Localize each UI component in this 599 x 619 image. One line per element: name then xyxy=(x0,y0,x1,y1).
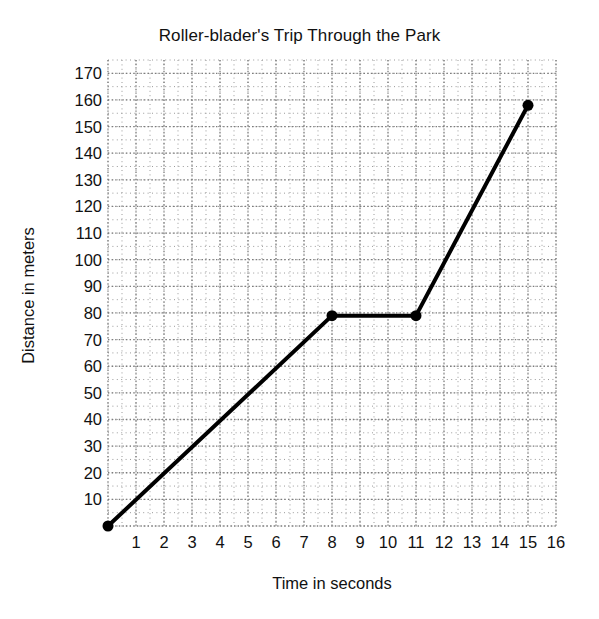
y-axis-tick-label: 90 xyxy=(48,278,102,294)
data-series xyxy=(108,60,556,526)
y-axis-tick-label: 50 xyxy=(48,385,102,401)
x-axis-tick-label: 11 xyxy=(401,533,431,551)
x-axis-tick-label: 12 xyxy=(429,533,459,551)
x-axis-tick-label: 1 xyxy=(121,533,151,551)
y-axis-tick-label: 20 xyxy=(48,465,102,481)
y-axis-tick-label: 100 xyxy=(48,252,102,268)
y-axis-title-container: Distance in meters xyxy=(10,0,44,619)
data-point-marker xyxy=(523,100,534,111)
y-axis-tick-label: 140 xyxy=(48,145,102,161)
chart-title: Roller-blader's Trip Through the Park xyxy=(0,26,599,46)
x-axis-tick-label: 8 xyxy=(317,533,347,551)
x-axis-tick-label: 5 xyxy=(233,533,263,551)
line-chart: Roller-blader's Trip Through the Park Di… xyxy=(0,0,599,619)
data-point-marker xyxy=(411,310,422,321)
y-axis-tick-label: 150 xyxy=(48,119,102,135)
x-axis-tick-labels: 12345678910111213141516 xyxy=(108,533,556,557)
x-axis-tick-label: 2 xyxy=(149,533,179,551)
x-axis-tick-label: 13 xyxy=(457,533,487,551)
series-line xyxy=(108,105,528,526)
y-axis-tick-label: 70 xyxy=(48,332,102,348)
data-point-marker xyxy=(327,310,338,321)
y-axis-tick-labels: 1020304050607080901001101201301401501601… xyxy=(40,60,102,526)
x-axis-tick-label: 15 xyxy=(513,533,543,551)
y-axis-tick-label: 160 xyxy=(48,92,102,108)
data-point-marker xyxy=(103,521,114,532)
y-axis-tick-label: 170 xyxy=(48,65,102,81)
plot-area xyxy=(108,60,556,526)
y-axis-tick-label: 110 xyxy=(48,225,102,241)
y-axis-tick-label: 80 xyxy=(48,305,102,321)
x-axis-tick-label: 16 xyxy=(541,533,571,551)
x-axis-tick-label: 6 xyxy=(261,533,291,551)
y-axis-tick-label: 40 xyxy=(48,411,102,427)
y-axis-tick-label: 120 xyxy=(48,198,102,214)
y-axis-title: Distance in meters xyxy=(19,186,38,406)
x-axis-tick-label: 4 xyxy=(205,533,235,551)
y-axis-tick-label: 130 xyxy=(48,172,102,188)
y-axis-tick-label: 60 xyxy=(48,358,102,374)
y-axis-tick-label: 30 xyxy=(48,438,102,454)
x-axis-tick-label: 3 xyxy=(177,533,207,551)
x-axis-title: Time in seconds xyxy=(108,574,556,593)
x-axis-tick-label: 14 xyxy=(485,533,515,551)
x-axis-tick-label: 9 xyxy=(345,533,375,551)
x-axis-tick-label: 10 xyxy=(373,533,403,551)
y-axis-tick-label: 10 xyxy=(48,491,102,507)
x-axis-tick-label: 7 xyxy=(289,533,319,551)
